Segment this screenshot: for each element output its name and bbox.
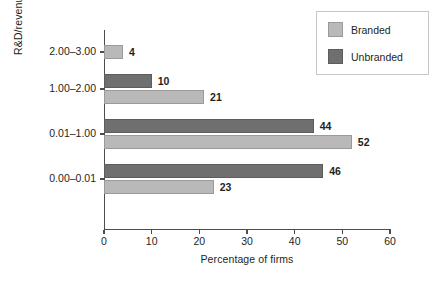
- legend-item-unbranded: Unbranded: [328, 49, 403, 64]
- y-tick-label: 0.01–1.00: [0, 127, 96, 139]
- legend-swatch-branded-icon: [328, 22, 343, 37]
- legend-label-unbranded: Unbranded: [351, 51, 403, 63]
- x-tick-label: 10: [132, 235, 172, 247]
- y-tick-label: 0.00–0.01: [0, 172, 96, 184]
- bar-value-label: 21: [210, 91, 222, 103]
- bar-branded-21: [104, 90, 204, 104]
- legend-swatch-unbranded-icon: [328, 49, 343, 64]
- bar-unbranded-46: [104, 164, 323, 178]
- bar-value-label: 46: [329, 165, 341, 177]
- y-tick-label: 1.00–2.00: [0, 82, 96, 94]
- x-tick-label: 30: [227, 235, 267, 247]
- bar-unbranded-10: [104, 74, 152, 88]
- bar-unbranded-44: [104, 119, 314, 133]
- bar-value-label: 44: [320, 120, 332, 132]
- x-tick-label: 40: [275, 235, 315, 247]
- bar-value-label: 4: [129, 46, 135, 58]
- legend: Branded Unbranded: [316, 11, 429, 75]
- legend-label-branded: Branded: [351, 24, 391, 36]
- x-tick-mark: [389, 230, 390, 234]
- x-tick-label: 50: [322, 235, 362, 247]
- bar-branded-4: [104, 45, 123, 59]
- legend-item-branded: Branded: [328, 22, 391, 37]
- y-tick-label: 2.00–3.00: [0, 45, 96, 57]
- y-axis-title: R&D/revenue ratio (%): [12, 0, 28, 76]
- x-tick-label: 60: [370, 235, 410, 247]
- x-tick-mark: [151, 230, 152, 234]
- x-tick-label: 20: [179, 235, 219, 247]
- bar-chart: R&D/revenue ratio (%) 01020304050602.00–…: [0, 0, 435, 281]
- x-tick-mark: [103, 230, 104, 234]
- bar-branded-52: [104, 135, 352, 149]
- x-axis-title: Percentage of firms: [104, 253, 390, 265]
- bar-value-label: 52: [358, 136, 370, 148]
- x-tick-mark: [342, 230, 343, 234]
- x-tick-mark: [199, 230, 200, 234]
- bar-value-label: 23: [220, 181, 232, 193]
- bar-branded-23: [104, 180, 214, 194]
- x-tick-mark: [246, 230, 247, 234]
- x-tick-label: 0: [84, 235, 124, 247]
- x-tick-mark: [294, 230, 295, 234]
- bar-value-label: 10: [158, 75, 170, 87]
